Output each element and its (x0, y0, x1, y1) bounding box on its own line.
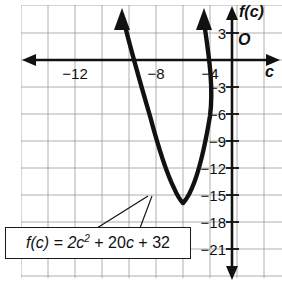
y-tick-label-minus21: −21 (201, 242, 226, 257)
y-tick-label-minus12: −12 (201, 161, 226, 176)
y-tick-label-3: 3 (218, 26, 226, 41)
y-axis-bottom-arrow (226, 266, 238, 280)
x-axis-title: c (265, 64, 274, 80)
equation-suffix: + 20 (90, 235, 126, 252)
equation-var2: c (126, 235, 134, 252)
y-tick-label-minus9: −9 (209, 134, 226, 149)
x-tick-label-minus12: −12 (62, 66, 87, 81)
graph-figure: −12 −8 −4 3 −3 −6 −9 −12 −15 −18 −21 f(c… (0, 0, 282, 289)
equation-tail: + 32 (134, 235, 170, 252)
y-tick-label-minus15: −15 (201, 188, 226, 203)
equation-text: f(c) = 2c2 + 20c + 32 (26, 233, 170, 252)
callout-leader-lines (97, 196, 152, 228)
y-axis-title: f(c) (239, 4, 264, 20)
parabola-left-arrow (114, 8, 130, 30)
equation-callout-box: f(c) = 2c2 + 20c + 32 (5, 227, 191, 259)
y-axis-top-arrow (226, 6, 238, 20)
y-tick-label-minus3: −3 (209, 80, 226, 95)
y-tick-label-minus18: −18 (201, 215, 226, 230)
x-axis-left-arrow (22, 54, 36, 66)
parabola-left-branch (124, 22, 183, 203)
equation-prefix: f(c) = 2 (26, 235, 76, 252)
y-tick-label-minus6: −6 (209, 107, 226, 122)
x-tick-label-minus8: −8 (147, 66, 164, 81)
origin-label: O (238, 32, 250, 48)
